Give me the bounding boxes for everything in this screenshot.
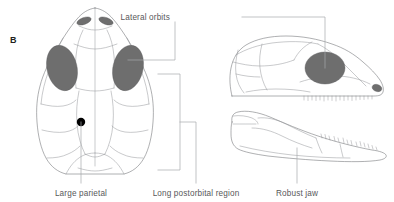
label-large-parietal: Large parietal [55,189,107,198]
mandible-lateral-view [231,111,386,161]
label-robust-jaw: Robust jaw [276,189,318,198]
lateral-skull-view [230,36,383,101]
label-long-postorbital-region: Long postorbital region [153,189,240,198]
lateral-skull-tooth-row [304,96,372,101]
leader-postorbital-bracket [158,74,180,170]
panel-letter-b: B [10,35,17,45]
mandible-outline [231,111,386,161]
scientific-figure-panel-b: B [0,0,394,202]
label-lateral-orbits: Lateral orbits [121,13,170,22]
dorsal-skull-view [37,8,154,174]
leader-postorbital-to-label [180,122,196,183]
skull-anatomy-diagram: B [0,0,394,202]
